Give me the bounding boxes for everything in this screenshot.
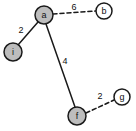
node-a-label: a [41,10,46,20]
edge-label-f-g: 2 [97,91,102,101]
edge-a-f [46,24,75,107]
edge-label-a-f: 4 [62,56,67,66]
graph-canvas: 6 2 4 2 a b i f g [0,0,136,131]
node-g-label: g [119,92,124,102]
node-a[interactable]: a [35,6,53,24]
graph-diagram: 6 2 4 2 a b i f g [0,0,136,131]
node-b[interactable]: b [96,3,112,19]
edge-labels-group: 6 2 4 2 [18,2,102,101]
node-i-label: i [12,47,14,57]
node-g[interactable]: g [114,89,130,105]
edge-label-a-b: 6 [71,2,76,12]
node-f[interactable]: f [68,107,86,125]
edge-f-g [86,100,114,113]
node-b-label: b [101,6,106,16]
node-i[interactable]: i [4,43,22,61]
edge-label-a-i: 2 [18,25,23,35]
